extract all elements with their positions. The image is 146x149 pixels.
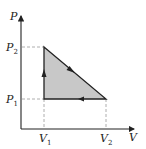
v2-label: V2 bbox=[100, 132, 112, 147]
p2-label: P2 bbox=[5, 41, 18, 56]
x-axis-label: V bbox=[129, 131, 138, 144]
y-axis-label: P bbox=[9, 10, 18, 23]
pv-diagram: P V P2 P1 V1 V2 bbox=[0, 0, 146, 149]
v1-label: V1 bbox=[39, 132, 51, 147]
p1-label: P1 bbox=[5, 93, 18, 108]
